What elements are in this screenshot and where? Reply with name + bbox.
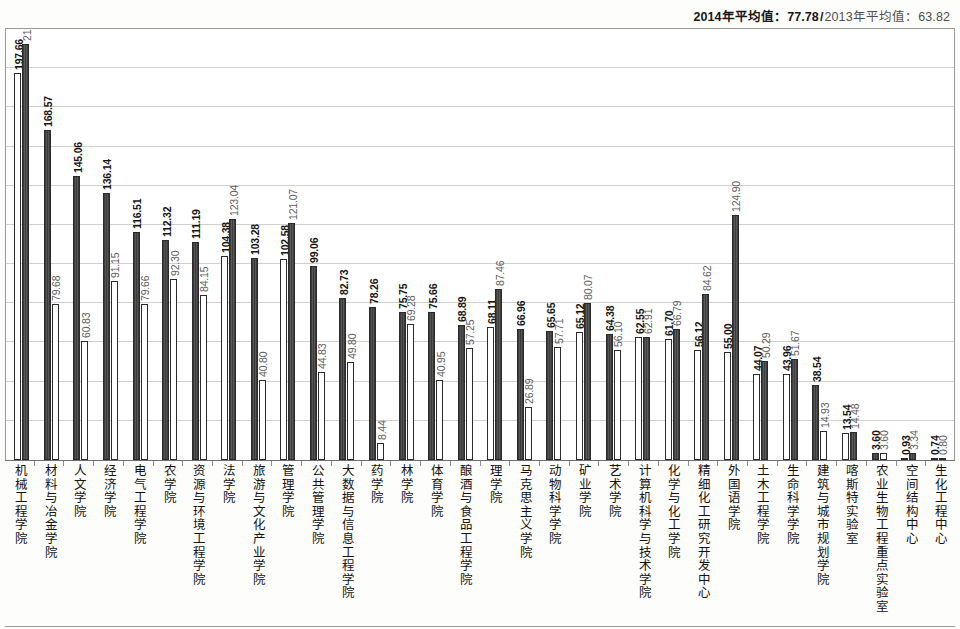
bar-group[interactable]: 0.740.80 xyxy=(923,29,953,460)
bar-group[interactable]: 43.9651.67 xyxy=(776,29,806,460)
bar-2013[interactable]: 3.60 xyxy=(880,453,887,460)
bar-group[interactable]: 136.1491.15 xyxy=(96,29,126,460)
bar-2013[interactable]: 62.91 xyxy=(643,337,650,460)
bar-2014[interactable]: 78.26 xyxy=(369,307,376,460)
bar-2014[interactable]: 136.14 xyxy=(103,193,110,460)
bar-2014[interactable]: 55.00 xyxy=(724,352,731,460)
bar-group[interactable]: 68.1187.46 xyxy=(480,29,510,460)
bar-2013[interactable]: 80.07 xyxy=(584,303,591,460)
bar-2014[interactable]: 62.55 xyxy=(635,337,642,460)
bar-2013[interactable]: 57.25 xyxy=(466,348,473,460)
bar-2014[interactable]: 104.38 xyxy=(221,256,228,460)
bar-value-label-2013: 79.68 xyxy=(51,276,61,301)
bar-group[interactable]: 168.5779.68 xyxy=(37,29,67,460)
bar-value-label-2014: 168.57 xyxy=(43,96,53,127)
bar-2014[interactable]: 82.73 xyxy=(339,298,346,460)
bar-2013[interactable]: 92.30 xyxy=(170,279,177,460)
bar-group[interactable]: 3.603.60 xyxy=(864,29,894,460)
bar-group[interactable]: 99.0644.83 xyxy=(303,29,333,460)
bar-group[interactable]: 112.3292.30 xyxy=(155,29,185,460)
category-label: 马克思主义学院 xyxy=(510,461,540,627)
bar-2013[interactable]: 69.28 xyxy=(407,324,414,460)
bar-2014[interactable]: 75.66 xyxy=(428,312,435,460)
bar-2013[interactable]: 8.44 xyxy=(377,443,384,460)
category-label: 酿酒与食品工程学院 xyxy=(450,461,480,627)
bar-2014[interactable]: 197.66 xyxy=(14,73,21,460)
bar-2013[interactable]: 26.89 xyxy=(525,407,532,460)
bar-2014[interactable]: 68.11 xyxy=(487,327,494,460)
bar-value-label-2013: 51.67 xyxy=(790,331,800,356)
bar-group[interactable]: 75.6640.95 xyxy=(421,29,451,460)
bar-group[interactable]: 13.5414.48 xyxy=(835,29,865,460)
bar-value-label-2013: 40.95 xyxy=(436,352,446,377)
bar-2014[interactable]: 65.12 xyxy=(576,332,583,460)
bar-2013[interactable]: 124.90 xyxy=(732,215,739,460)
bar-2014[interactable]: 56.12 xyxy=(694,350,701,460)
bar-group[interactable]: 38.5414.93 xyxy=(805,29,835,460)
bar-group[interactable]: 66.9626.89 xyxy=(510,29,540,460)
bar-2013[interactable]: 123.04 xyxy=(229,219,236,460)
current-year-average: 2014年平均值：77.78 xyxy=(693,10,819,24)
bar-group[interactable]: 82.7349.80 xyxy=(332,29,362,460)
bar-2013[interactable]: 84.62 xyxy=(702,294,709,460)
bar-2014[interactable]: 102.58 xyxy=(280,259,287,460)
bar-group[interactable]: 56.1284.62 xyxy=(687,29,717,460)
bar-group[interactable]: 75.7569.28 xyxy=(391,29,421,460)
bar-2013[interactable]: 87.46 xyxy=(495,289,502,460)
bar-2014[interactable]: 13.54 xyxy=(842,433,849,460)
bar-group[interactable]: 197.66212.50 xyxy=(7,29,37,460)
category-axis: 机械工程学院材料与冶金学院人文学院经济学院电气工程学院农学院资源与环境工程学院法… xyxy=(5,461,955,627)
bar-2013[interactable]: 40.95 xyxy=(436,380,443,460)
bar-2014[interactable]: 116.51 xyxy=(133,232,140,460)
bar-group[interactable]: 44.0750.29 xyxy=(746,29,776,460)
bar-2013[interactable]: 79.66 xyxy=(141,304,148,460)
bar-group[interactable]: 61.7066.79 xyxy=(657,29,687,460)
bar-2014[interactable]: 43.96 xyxy=(783,374,790,460)
bar-group[interactable]: 103.2840.80 xyxy=(244,29,274,460)
bar-2014[interactable]: 65.65 xyxy=(546,331,553,460)
bar-2013[interactable]: 14.48 xyxy=(850,432,857,460)
bar-group[interactable]: 62.5562.91 xyxy=(628,29,658,460)
bar-group[interactable]: 145.0660.83 xyxy=(66,29,96,460)
bar-2013[interactable]: 66.79 xyxy=(673,329,680,460)
bar-2013[interactable]: 50.29 xyxy=(761,361,768,460)
category-label-text: 化学与化工学院 xyxy=(666,464,680,627)
category-label: 精细化工研究开发中心 xyxy=(688,461,718,627)
bar-group[interactable]: 116.5179.66 xyxy=(125,29,155,460)
bar-group[interactable]: 104.38123.04 xyxy=(214,29,244,460)
bar-2013[interactable]: 40.80 xyxy=(259,380,266,460)
bar-2014[interactable]: 64.38 xyxy=(606,334,613,460)
bar-2014[interactable]: 61.70 xyxy=(665,339,672,460)
bar-2013[interactable]: 44.83 xyxy=(318,372,325,460)
bar-group[interactable]: 0.933.34 xyxy=(894,29,924,460)
bar-2013[interactable]: 212.50 xyxy=(22,44,29,460)
bar-2013[interactable]: 56.10 xyxy=(614,350,621,460)
category-label: 土木工程学院 xyxy=(747,461,777,627)
category-label: 公共管理学院 xyxy=(302,461,332,627)
bar-group[interactable]: 68.8957.25 xyxy=(450,29,480,460)
bar-2013[interactable]: 121.07 xyxy=(288,223,295,460)
bar-value-label-2014: 111.19 xyxy=(191,209,201,239)
bar-value-label-2013: 60.83 xyxy=(81,313,91,338)
category-label-text: 酿酒与食品工程学院 xyxy=(458,464,472,627)
category-label: 林学院 xyxy=(391,461,421,627)
bar-group[interactable]: 78.268.44 xyxy=(362,29,392,460)
bar-2013[interactable]: 49.80 xyxy=(347,362,354,460)
bar-2013[interactable]: 51.67 xyxy=(791,359,798,460)
bar-2013[interactable]: 60.83 xyxy=(81,341,88,460)
bar-2014[interactable]: 68.89 xyxy=(458,325,465,460)
bar-2013[interactable]: 57.71 xyxy=(554,347,561,460)
bar-group[interactable]: 65.1280.07 xyxy=(569,29,599,460)
bar-group[interactable]: 64.3856.10 xyxy=(598,29,628,460)
bar-2014[interactable]: 3.60 xyxy=(872,453,879,460)
bar-group[interactable]: 111.1984.15 xyxy=(184,29,214,460)
bar-2014[interactable]: 44.07 xyxy=(753,374,760,460)
bar-2013[interactable]: 14.93 xyxy=(820,431,827,460)
bar-2013[interactable]: 84.15 xyxy=(200,295,207,460)
bar-2014[interactable]: 75.75 xyxy=(399,312,406,460)
bar-2013[interactable]: 79.68 xyxy=(52,304,59,460)
bar-2013[interactable]: 91.15 xyxy=(111,281,118,460)
bar-group[interactable]: 102.58121.07 xyxy=(273,29,303,460)
bar-group[interactable]: 65.6557.71 xyxy=(539,29,569,460)
bar-group[interactable]: 55.00124.90 xyxy=(717,29,747,460)
